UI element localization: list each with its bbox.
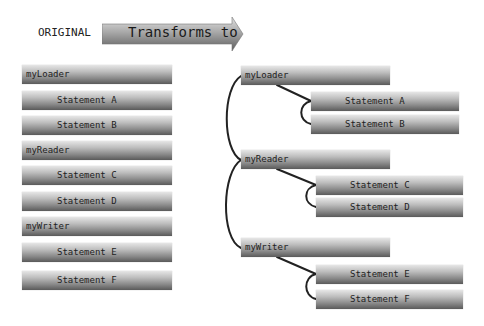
tree-leaf-statement-a: Statement A bbox=[311, 92, 459, 111]
original-statement-e: Statement E bbox=[22, 243, 172, 262]
connector-reader-writer bbox=[226, 160, 241, 248]
original-statement-a: Statement A bbox=[22, 91, 172, 110]
original-block-myreader: myReader bbox=[22, 141, 172, 160]
original-block-myloader: myLoader bbox=[22, 65, 172, 84]
original-statement-c: Statement C bbox=[22, 166, 172, 185]
transforms-arrow: Transforms to bbox=[102, 17, 244, 51]
tree-node-myloader: myLoader bbox=[241, 66, 390, 85]
original-statement-d: Statement D bbox=[22, 192, 172, 211]
tree-leaf-statement-f: Statement F bbox=[316, 290, 463, 309]
tree-leaf-statement-b: Statement B bbox=[311, 115, 459, 134]
tree-node-mywriter: myWriter bbox=[241, 238, 390, 257]
connector-statement-c-d bbox=[306, 185, 316, 207]
connector-statement-a-b bbox=[301, 101, 311, 124]
connector-writer-statement-e bbox=[277, 257, 316, 274]
connector-statement-e-f bbox=[306, 274, 316, 299]
original-label: ORIGINAL bbox=[38, 26, 91, 39]
tree-leaf-statement-c: Statement C bbox=[316, 176, 463, 195]
original-statement-f: Statement F bbox=[22, 271, 172, 290]
tree-node-myreader: myReader bbox=[241, 150, 390, 169]
original-statement-b: Statement B bbox=[22, 116, 172, 135]
tree-leaf-statement-e: Statement E bbox=[316, 265, 463, 284]
tree-leaf-statement-d: Statement D bbox=[316, 198, 463, 217]
connector-loader-statement-a bbox=[277, 85, 311, 101]
original-block-mywriter: myWriter bbox=[22, 217, 172, 236]
connector-reader-statement-c bbox=[277, 169, 316, 185]
arrow-label: Transforms to bbox=[128, 24, 238, 40]
connector-loader-reader bbox=[227, 76, 241, 160]
